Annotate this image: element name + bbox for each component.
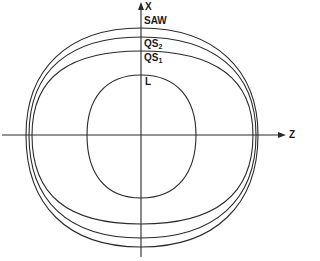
- axis-x-label: X: [145, 2, 152, 12]
- label-saw: SAW: [144, 16, 167, 26]
- label-l: L: [145, 77, 151, 87]
- label-qs1-subscript: 1: [158, 57, 162, 64]
- label-qs1-text: QS: [144, 52, 158, 63]
- curve-qs2: [29, 37, 256, 238]
- label-qs2-subscript: 2: [158, 43, 162, 50]
- label-qs2-text: QS: [144, 38, 158, 49]
- label-qs2: QS2: [144, 39, 162, 50]
- axis-x-arrow-icon: [138, 2, 144, 10]
- label-qs1: QS1: [144, 53, 162, 64]
- label-l-text: L: [145, 76, 151, 87]
- label-saw-text: SAW: [144, 15, 167, 26]
- axis-z-label: Z: [289, 130, 295, 140]
- axis-z-arrow-icon: [278, 132, 286, 138]
